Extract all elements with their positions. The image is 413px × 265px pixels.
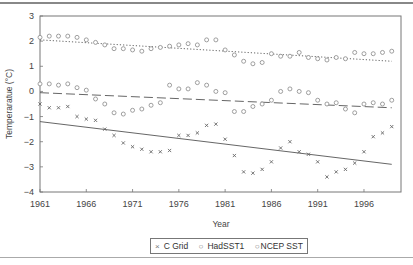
- bottom-rule: [0, 257, 413, 258]
- x-marker-icon: ×: [155, 240, 160, 254]
- y-axis-label: Temperaratue (°C): [4, 69, 14, 139]
- circle-marker-icon: ○: [255, 240, 260, 254]
- x-tick-label: 1991: [308, 199, 328, 209]
- circle-marker-icon: ○: [199, 240, 204, 254]
- x-tick-label: 1981: [215, 199, 235, 209]
- y-tick-label: 3: [29, 11, 34, 21]
- legend-label: C Grid: [164, 239, 189, 253]
- legend: ×C Grid ○HadSST1 ○NCEP SST: [150, 238, 308, 254]
- x-tick-label: 1996: [354, 199, 374, 209]
- chart-plot: 3210−1−2−3−4 196119661971197619811986199…: [0, 0, 413, 235]
- y-tick-label: 2: [29, 36, 34, 46]
- legend-label: NCEP SST: [261, 239, 303, 253]
- x-tick-label: 1976: [169, 199, 189, 209]
- data-points: [38, 34, 394, 178]
- y-tick-label: −4: [24, 187, 34, 197]
- x-tick-label: 1971: [123, 199, 143, 209]
- legend-label: HadSST1: [207, 239, 244, 253]
- legend-item-hadsst1: ○HadSST1: [199, 239, 245, 254]
- x-tick-label: 1961: [30, 199, 50, 209]
- legend-item-ncep-sst: ○NCEP SST: [255, 239, 303, 254]
- x-tick-label: 1966: [76, 199, 96, 209]
- y-tick-label: −3: [24, 162, 34, 172]
- y-tick-label: 1: [29, 61, 34, 71]
- trend-lines: [40, 40, 392, 164]
- y-tick-label: −1: [24, 112, 34, 122]
- x-axis-label: Year: [212, 219, 229, 229]
- y-tick-label: −2: [24, 137, 34, 147]
- x-tick-label: 1986: [261, 199, 281, 209]
- legend-item-c-grid: ×C Grid: [155, 239, 188, 254]
- y-tick-label: 0: [29, 86, 34, 96]
